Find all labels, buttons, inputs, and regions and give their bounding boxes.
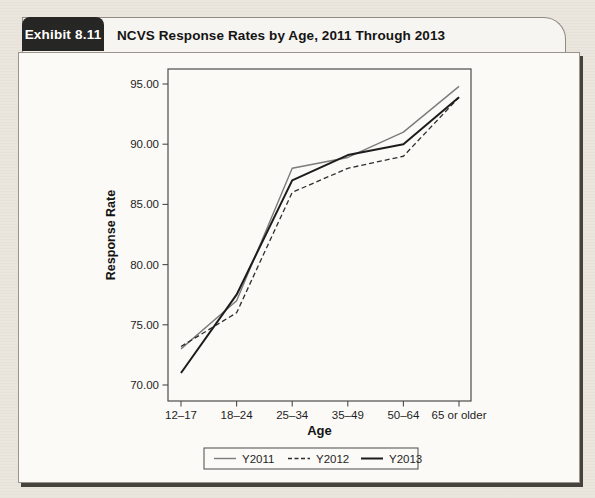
chart-panel: 70.0075.0080.0085.0090.0095.0012–1718–24… <box>18 52 580 483</box>
x-tick-label: 12–17 <box>165 409 197 421</box>
book-page: Exhibit 8.11 NCVS Response Rates by Age,… <box>0 0 595 498</box>
plot-frame <box>168 69 471 401</box>
y-tick-label: 95.00 <box>130 78 159 90</box>
y-tick-label: 90.00 <box>130 138 159 150</box>
y-axis: 70.0075.0080.0085.0090.0095.00 <box>130 78 168 391</box>
x-tick-label: 35–49 <box>332 409 364 421</box>
legend-label-Y2013: Y2013 <box>389 453 422 465</box>
series-Y2013 <box>181 97 459 373</box>
line-chart: 70.0075.0080.0085.0090.0095.0012–1718–24… <box>19 53 579 482</box>
legend-label-Y2011: Y2011 <box>242 453 274 465</box>
exhibit-tab: Exhibit 8.11 <box>22 17 104 51</box>
exhibit-number: Exhibit 8.11 <box>25 27 102 42</box>
y-tick-label: 75.00 <box>130 319 159 331</box>
x-tick-label: 50–64 <box>387 409 420 421</box>
legend-box <box>204 448 418 469</box>
series-Y2012 <box>181 97 459 346</box>
y-tick-label: 70.00 <box>130 379 159 391</box>
x-tick-label: 18–24 <box>221 409 254 421</box>
y-tick-label: 80.00 <box>130 259 159 271</box>
x-axis-title: Age <box>307 423 332 438</box>
legend-label-Y2012: Y2012 <box>316 453 349 465</box>
exhibit-title: NCVS Response Rates by Age, 2011 Through… <box>117 28 445 43</box>
x-tick-label: 25–34 <box>276 409 309 421</box>
y-axis-title: Response Rate <box>104 190 118 280</box>
legend: Y2011Y2012Y2013 <box>204 448 422 469</box>
series-Y2011 <box>181 86 459 348</box>
x-axis: 12–1718–2425–3435–4950–6465 or older <box>165 401 487 421</box>
x-tick-label: 65 or older <box>432 409 487 421</box>
y-tick-label: 85.00 <box>130 198 159 210</box>
